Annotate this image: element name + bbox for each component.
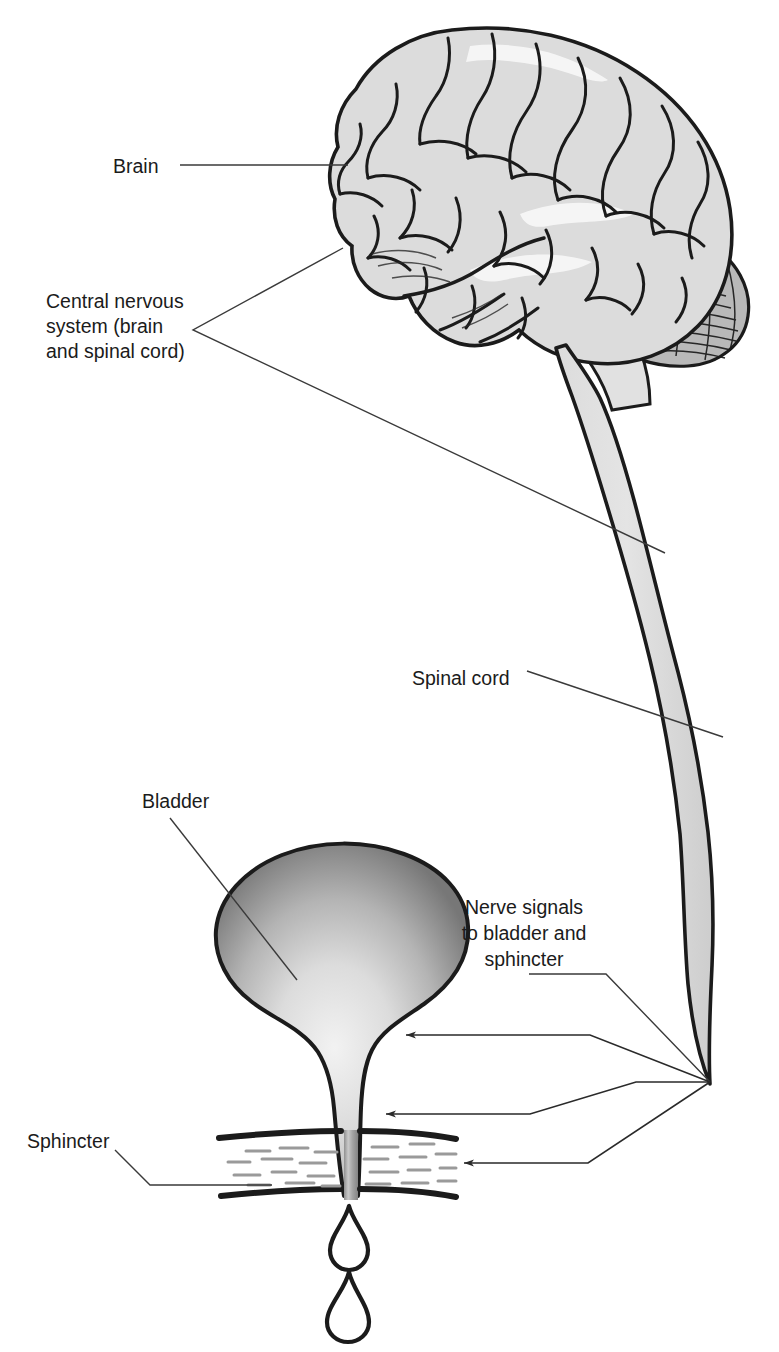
label-central-nervous-system: Central nervous system (brain and spinal…: [46, 290, 185, 362]
arrow-to-sphincter: [464, 1082, 710, 1163]
label-spinal-cord: Spinal cord: [412, 667, 510, 689]
leader-spinal-cord: [527, 671, 723, 737]
cerebrum: [330, 28, 732, 364]
brain-illustration: [330, 28, 749, 410]
urine-drop-lower: [327, 1272, 369, 1342]
anatomy-diagram: Brain Central nervous system (brain and …: [0, 0, 779, 1352]
leader-sphincter: [115, 1150, 272, 1185]
arrow-to-urethra: [386, 1082, 710, 1114]
spinal-cord: [556, 345, 713, 1084]
urine-drop-upper: [330, 1206, 368, 1270]
label-cns-line-3: and spinal cord): [46, 340, 185, 362]
arrow-to-bladder: [406, 1035, 710, 1082]
urine-drops: [327, 1206, 369, 1342]
label-brain: Brain: [113, 155, 159, 177]
label-sphincter: Sphincter: [27, 1130, 110, 1152]
figure-canvas: Brain Central nervous system (brain and …: [0, 0, 779, 1352]
bladder-illustration: [216, 844, 468, 1200]
label-nerve-signals-line-2: to bladder and: [462, 922, 587, 944]
label-nerve-signals: Nerve signals to bladder and sphincter: [462, 896, 587, 970]
urethra: [344, 1130, 358, 1200]
label-nerve-signals-line-1: Nerve signals: [465, 896, 583, 918]
label-bladder: Bladder: [142, 790, 210, 812]
leader-nerve-signals: [529, 974, 710, 1082]
label-cns-line-2: system (brain: [46, 315, 163, 337]
label-nerve-signals-line-3: sphincter: [484, 948, 564, 970]
label-cns-line-1: Central nervous: [46, 290, 184, 312]
